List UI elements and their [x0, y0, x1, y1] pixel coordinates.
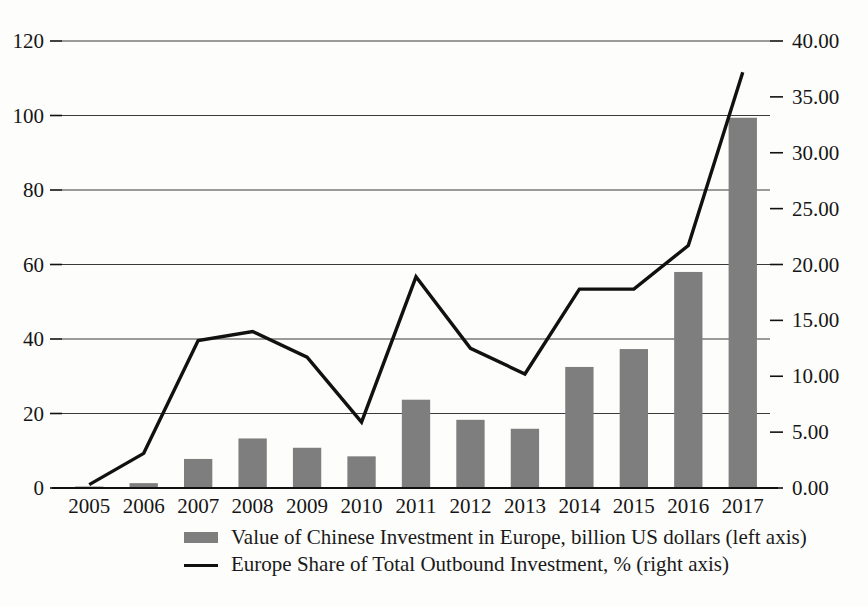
- svg-text:20: 20: [23, 402, 44, 426]
- chart-plot-area: 020406080100120 0.005.0010.0015.0020.002…: [0, 0, 868, 607]
- legend-item-bar: Value of Chinese Investment in Europe, b…: [184, 524, 807, 551]
- svg-text:40.00: 40.00: [792, 29, 839, 53]
- svg-text:5.00: 5.00: [792, 420, 829, 444]
- svg-text:20.00: 20.00: [792, 253, 839, 277]
- svg-text:25.00: 25.00: [792, 197, 839, 221]
- svg-text:2015: 2015: [613, 494, 655, 518]
- chart-legend: Value of Chinese Investment in Europe, b…: [0, 524, 868, 578]
- svg-text:2009: 2009: [286, 494, 328, 518]
- svg-text:2006: 2006: [123, 494, 165, 518]
- svg-text:2007: 2007: [177, 494, 219, 518]
- svg-text:2017: 2017: [722, 494, 764, 518]
- legend-label-bar: Value of Chinese Investment in Europe, b…: [231, 524, 807, 551]
- svg-text:2010: 2010: [341, 494, 383, 518]
- svg-text:0.00: 0.00: [792, 476, 829, 500]
- svg-text:2011: 2011: [395, 494, 436, 518]
- svg-text:0: 0: [34, 476, 45, 500]
- svg-text:2008: 2008: [232, 494, 274, 518]
- svg-text:2005: 2005: [68, 494, 110, 518]
- legend-label-line: Europe Share of Total Outbound Investmen…: [231, 551, 729, 578]
- svg-text:80: 80: [23, 178, 44, 202]
- svg-text:40: 40: [23, 327, 44, 351]
- bar-swatch-icon: [184, 532, 218, 543]
- svg-text:60: 60: [23, 253, 44, 277]
- svg-text:15.00: 15.00: [792, 308, 839, 332]
- svg-text:100: 100: [13, 104, 45, 128]
- svg-text:120: 120: [13, 29, 45, 53]
- chart-container: 020406080100120 0.005.0010.0015.0020.002…: [0, 0, 868, 607]
- line-swatch-icon: [184, 564, 218, 567]
- svg-text:30.00: 30.00: [792, 141, 839, 165]
- svg-text:10.00: 10.00: [792, 364, 839, 388]
- svg-text:2013: 2013: [504, 494, 546, 518]
- x-axis-tick-labels: 2005200620072008200920102011201220132014…: [68, 494, 764, 518]
- legend-item-line: Europe Share of Total Outbound Investmen…: [184, 551, 807, 578]
- bar-series: [75, 118, 757, 488]
- svg-text:2014: 2014: [558, 494, 601, 518]
- svg-text:2016: 2016: [667, 494, 709, 518]
- left-axis-tick-labels: 020406080100120: [13, 29, 63, 500]
- svg-text:2012: 2012: [449, 494, 491, 518]
- right-axis-tick-labels: 0.005.0010.0015.0020.0025.0030.0035.0040…: [770, 29, 839, 500]
- gridlines: [62, 41, 770, 414]
- svg-text:35.00: 35.00: [792, 85, 839, 109]
